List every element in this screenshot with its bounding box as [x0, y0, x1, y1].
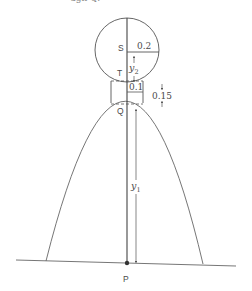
- label-s: S: [118, 44, 124, 53]
- label-neck-height: 0.15: [152, 92, 172, 101]
- label-half-width: 0.1: [129, 83, 143, 92]
- point-p: [125, 261, 129, 265]
- label-q: Q: [117, 107, 124, 116]
- label-y2: y2: [129, 63, 139, 75]
- label-t: T: [117, 69, 122, 78]
- parabola-curve: [46, 101, 203, 264]
- diagram: [0, 0, 252, 291]
- label-radius: 0.2: [137, 42, 151, 51]
- label-y1: y1: [131, 181, 141, 193]
- label-p: P: [123, 275, 129, 284]
